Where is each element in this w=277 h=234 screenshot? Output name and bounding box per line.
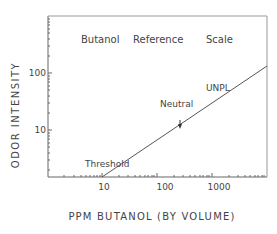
neutral-arrow-icon xyxy=(178,120,182,129)
title-word-2: Reference xyxy=(133,34,183,45)
ytick-100: 100 xyxy=(29,68,46,78)
ytick-10: 10 xyxy=(35,125,47,135)
title-word-3: Scale xyxy=(206,34,233,45)
x-ticks xyxy=(64,173,264,177)
annotation-threshold: Threshold xyxy=(84,159,129,169)
x-axis-label: PPM BUTANOL (BY VOLUME) xyxy=(68,211,235,222)
chart: 100 10 10 100 1000 Butanol Reference Sca… xyxy=(0,0,277,234)
y-ticks xyxy=(48,19,52,170)
title-word-1: Butanol xyxy=(81,34,119,45)
xtick-100: 100 xyxy=(156,182,173,192)
annotation-unpl: UNPL xyxy=(206,83,230,93)
xtick-10: 10 xyxy=(98,182,110,192)
y-axis-label: ODOR INTENSITY xyxy=(10,62,21,168)
annotation-neutral: Neutral xyxy=(160,99,193,109)
xtick-1000: 1000 xyxy=(208,182,231,192)
